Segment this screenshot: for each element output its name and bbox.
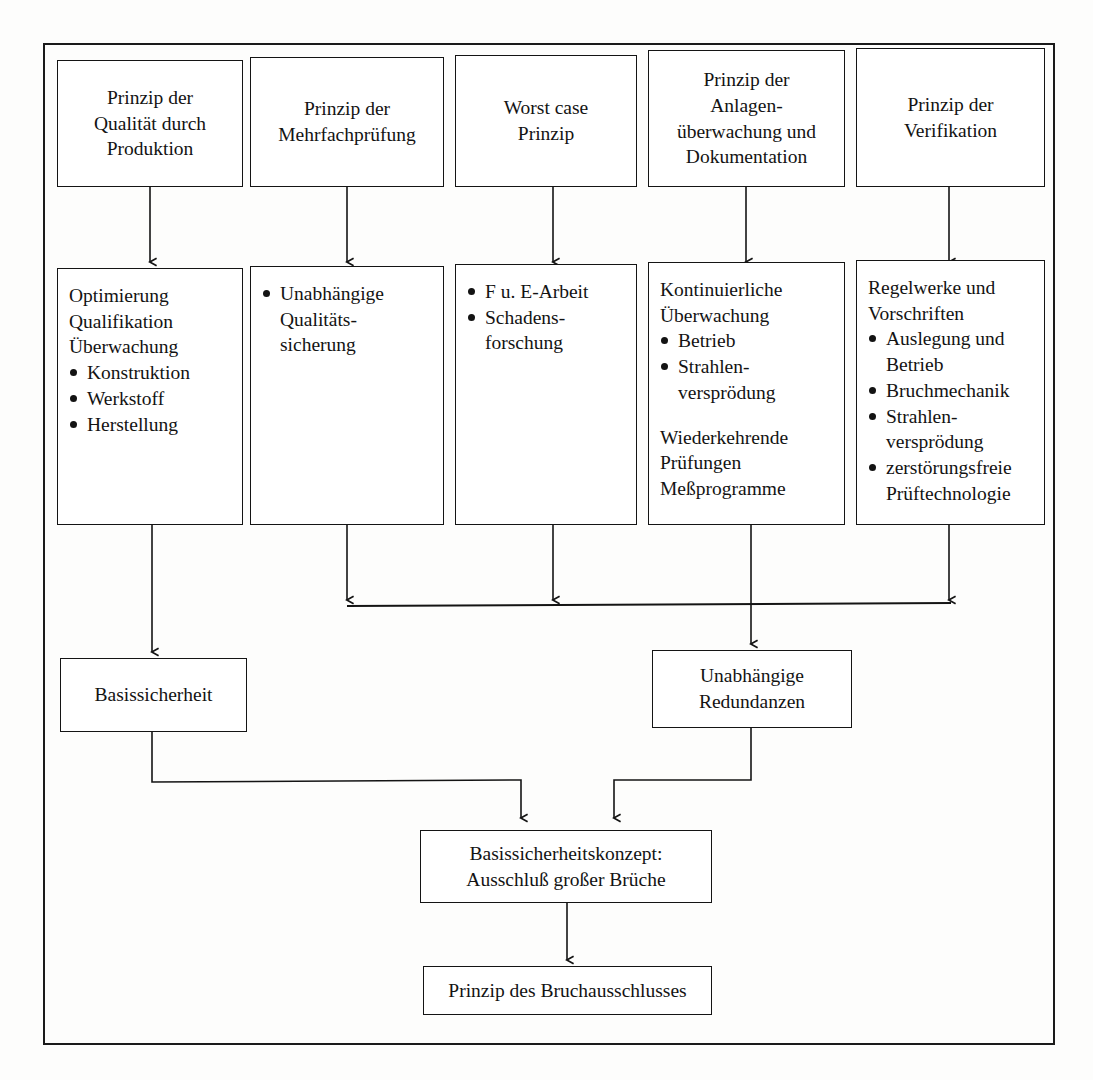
node-basissicherheit[interactable]: Basissicherheit xyxy=(60,658,247,732)
bullet-text: Betrieb xyxy=(678,328,835,354)
node-line: Produktion xyxy=(107,138,194,159)
node-line: Basissicherheitskonzept: xyxy=(470,843,663,864)
node-prinzip-bruchausschluss[interactable]: Prinzip des Bruchausschlusses xyxy=(423,966,712,1015)
node-line: Überwachung xyxy=(660,303,835,329)
list-item: UnabhängigeQualitäts-sicherung xyxy=(262,281,434,358)
arrow-konzept-right xyxy=(614,728,751,818)
bullet-list: Konstruktion Werkstoff Herstellung xyxy=(69,360,233,437)
node-line: Wiederkehrende xyxy=(660,425,835,451)
node-line: Basissicherheit xyxy=(61,682,246,708)
bullet-text: Schadens-forschung xyxy=(485,305,627,356)
bullet-text: UnabhängigeQualitäts-sicherung xyxy=(280,281,434,358)
node-line: Prinzip der xyxy=(304,98,390,119)
node-regelwerke-vorschriften[interactable]: Regelwerke und Vorschriften Auslegung un… xyxy=(856,260,1045,525)
node-line: Überwachung xyxy=(69,334,233,360)
collector-bar xyxy=(347,603,951,606)
node-line: Mehrfachprüfung xyxy=(278,124,416,145)
node-basissicherheitskonzept[interactable]: Basissicherheitskonzept: Ausschluß große… xyxy=(420,830,712,903)
spacer xyxy=(660,406,835,425)
bullet-list: F u. E-Arbeit Schadens-forschung xyxy=(467,279,627,356)
list-item: Betrieb xyxy=(660,328,835,354)
node-unabhaengige-qualitaetssicherung[interactable]: UnabhängigeQualitäts-sicherung xyxy=(250,266,444,525)
node-line: Qualifikation xyxy=(69,309,233,335)
node-line: Verifikation xyxy=(904,120,997,141)
bullet-text: zerstörungsfreiePrüftechnologie xyxy=(886,455,1035,506)
node-line: Optimierung xyxy=(69,283,233,309)
node-line: Anlagen- xyxy=(710,95,783,116)
node-line: Prüfungen xyxy=(660,450,835,476)
list-item: Werkstoff xyxy=(69,386,233,412)
node-line: Qualität durch xyxy=(94,113,206,134)
node-line: überwachung und xyxy=(677,121,816,142)
bullet-list: Auslegung undBetrieb Bruchmechanik Strah… xyxy=(868,326,1035,506)
node-line: Prinzip der xyxy=(907,94,993,115)
list-item: zerstörungsfreiePrüftechnologie xyxy=(868,455,1035,506)
bullet-text: Konstruktion xyxy=(87,360,233,386)
node-line: Regelwerke und xyxy=(868,275,1035,301)
node-worst-case[interactable]: Worst case Prinzip xyxy=(455,55,637,187)
bullet-text: Bruchmechanik xyxy=(886,378,1035,404)
node-line: Meßprogramme xyxy=(660,476,835,502)
node-line: Prinzip der xyxy=(107,87,193,108)
node-line: Redundanzen xyxy=(699,691,805,712)
bullet-text: Werkstoff xyxy=(87,386,233,412)
node-fue-arbeit[interactable]: F u. E-Arbeit Schadens-forschung xyxy=(455,264,637,525)
list-item: Konstruktion xyxy=(69,360,233,386)
diagram-canvas: Prinzip der Qualität durch Produktion Pr… xyxy=(0,0,1093,1080)
node-line: Ausschluß großer Brüche xyxy=(466,869,665,890)
node-line: Worst case xyxy=(504,97,589,118)
node-mehrfachpruefung[interactable]: Prinzip der Mehrfachprüfung xyxy=(250,57,444,187)
arrow-konzept-left xyxy=(152,732,521,818)
list-item: F u. E-Arbeit xyxy=(467,279,627,305)
node-optimierung[interactable]: Optimierung Qualifikation Überwachung Ko… xyxy=(57,268,243,525)
node-line: Prinzip xyxy=(518,123,574,144)
list-item: Strahlen-versprödung xyxy=(660,354,835,405)
node-line: Kontinuierliche xyxy=(660,277,835,303)
list-item: Auslegung undBetrieb xyxy=(868,326,1035,377)
bullet-list: Betrieb Strahlen-versprödung xyxy=(660,328,835,405)
bullet-text: Herstellung xyxy=(87,412,233,438)
node-line: Prinzip des Bruchausschlusses xyxy=(424,978,711,1004)
bullet-list: UnabhängigeQualitäts-sicherung xyxy=(262,281,434,358)
bullet-text: F u. E-Arbeit xyxy=(485,279,627,305)
list-item: Schadens-forschung xyxy=(467,305,627,356)
list-item: Strahlen-versprödung xyxy=(868,404,1035,455)
node-unabhaengige-redundanzen[interactable]: Unabhängige Redundanzen xyxy=(652,650,852,728)
list-item: Bruchmechanik xyxy=(868,378,1035,404)
list-item: Herstellung xyxy=(69,412,233,438)
bullet-text: Strahlen-versprödung xyxy=(678,354,835,405)
node-line: Prinzip der xyxy=(703,69,789,90)
node-line: Unabhängige xyxy=(700,665,804,686)
bullet-text: Strahlen-versprödung xyxy=(886,404,1035,455)
node-qualitaet-durch-produktion[interactable]: Prinzip der Qualität durch Produktion xyxy=(57,60,243,187)
node-anlagenueberwachung[interactable]: Prinzip der Anlagen- überwachung und Dok… xyxy=(648,50,845,187)
node-line: Dokumentation xyxy=(686,146,807,167)
node-kontinuierliche-ueberwachung[interactable]: Kontinuierliche Überwachung Betrieb Stra… xyxy=(648,262,845,525)
node-line: Vorschriften xyxy=(868,301,1035,327)
node-verifikation[interactable]: Prinzip der Verifikation xyxy=(856,48,1045,187)
bullet-text: Auslegung undBetrieb xyxy=(886,326,1035,377)
